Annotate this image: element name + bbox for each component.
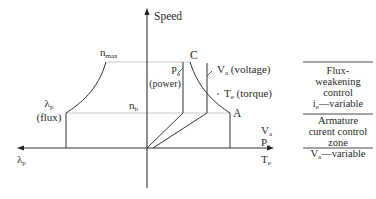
flux-weakening-line3: control xyxy=(302,87,374,98)
nmax-sub: max xyxy=(106,52,118,60)
torque-axis-sub: e xyxy=(268,159,271,167)
ie-variable-text: —variable xyxy=(319,98,363,109)
power-curve-desc: (power) xyxy=(148,79,182,89)
flux-weakening-zone-label: Flux- weakening control ie—variable xyxy=(302,65,374,109)
left-axis-arrow-icon xyxy=(17,146,24,151)
torque-axis-label: Te xyxy=(261,154,271,167)
voltage-curve-symbol: V xyxy=(217,63,225,75)
flux-weakening-line2: weakening xyxy=(302,76,374,87)
va-symbol: V xyxy=(310,148,318,159)
speed-axis-label: Speed xyxy=(154,11,182,23)
speed-axis-arrow-icon xyxy=(145,8,150,15)
flux-curve-symbol-row: λp xyxy=(36,98,62,111)
flux-weakening-line4: ie—variable xyxy=(302,98,374,109)
flux-axis-label: λp xyxy=(17,154,26,167)
point-c-label: C xyxy=(190,50,198,62)
va-variable-text: —variable xyxy=(321,148,365,159)
power-axis-label: Pe xyxy=(261,137,270,150)
power-axis-sub: e xyxy=(267,142,270,150)
flux-curve-desc: (flux) xyxy=(36,112,62,123)
point-a-label: A xyxy=(233,108,241,120)
flux-axis-sub: p xyxy=(22,159,26,167)
voltage-curve-desc: (voltage) xyxy=(231,63,271,75)
torque-curve-sub: e xyxy=(231,93,234,101)
nb-sub: b xyxy=(135,105,139,113)
armature-line3: Va—variable xyxy=(298,148,376,159)
voltage-curve-sub: a xyxy=(225,69,228,77)
power-curve-label: Pe (power) xyxy=(148,66,182,89)
flux-curve-label: λp (flux) xyxy=(36,98,62,123)
torque-label-dot xyxy=(217,93,219,95)
nb-label: nb xyxy=(129,100,138,113)
voltage-axis-symbol: V xyxy=(261,124,269,136)
torque-axis-symbol: T xyxy=(261,153,268,165)
torque-curve-symbol: T xyxy=(224,87,231,99)
torque-curve-label: Te (torque) xyxy=(224,88,272,101)
armature-zone-label: Armature curent control zone Va—variable xyxy=(298,115,376,159)
power-curve-sub: e xyxy=(177,70,180,78)
flux-curve xyxy=(66,62,106,148)
voltage-curve-label: Va (voltage) xyxy=(217,64,271,77)
armature-line1: Armature xyxy=(298,115,376,126)
power-curve-symbol-row: Pe xyxy=(148,66,182,78)
torque-curve-desc: (torque) xyxy=(237,87,272,99)
voltage-label-tick xyxy=(207,71,212,76)
armature-line2: curent control zone xyxy=(298,126,376,148)
flux-curve-sub: p xyxy=(50,103,54,111)
nmax-label: nmax xyxy=(100,47,118,60)
flux-weakening-line1: Flux- xyxy=(302,65,374,76)
